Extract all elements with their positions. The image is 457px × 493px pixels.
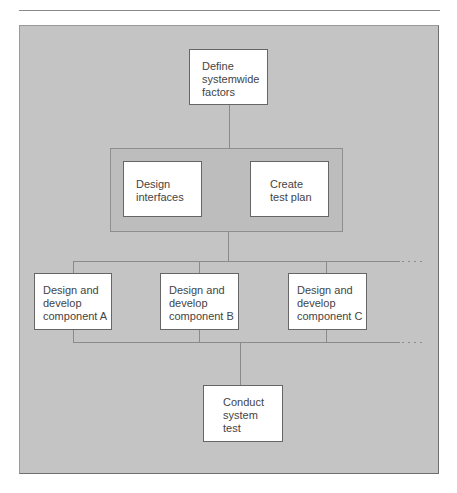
box-line: component A (43, 310, 111, 323)
box-line: develop (169, 297, 238, 310)
component-c-box: Design and develop component C (288, 273, 367, 330)
define-systemwide-factors-box: Define systemwide factors (189, 49, 268, 105)
conduct-system-test-box: Conduct system test (203, 385, 283, 442)
component-b-box: Design and develop component B (160, 273, 239, 330)
bottom-bus-line (73, 342, 400, 343)
box-line: system (223, 409, 282, 422)
create-test-plan-box: Create test plan (250, 161, 329, 217)
box-line: component B (169, 310, 238, 323)
box-line: Design and (169, 284, 238, 297)
component-a-box: Design and develop component A (34, 273, 112, 330)
box-line: Design and (297, 284, 366, 297)
box-line: Design and (43, 284, 111, 297)
design-interfaces-box: Design interfaces (123, 161, 202, 217)
connector-top-to-group (229, 105, 230, 148)
top-rule (19, 10, 440, 11)
connector-group-to-bus (228, 232, 229, 261)
box-line: factors (202, 86, 267, 99)
box-line: systemwide (202, 73, 267, 86)
box-line: Define (202, 60, 267, 73)
connector-bus-to-test (240, 342, 241, 385)
box-line: Create (270, 178, 328, 191)
box-line: develop (43, 297, 111, 310)
box-line: Conduct (223, 396, 282, 409)
bottom-bus-continuation (402, 342, 426, 343)
top-bus-continuation (402, 261, 426, 262)
box-line: component C (297, 310, 366, 323)
box-line: develop (297, 297, 366, 310)
box-line: test (223, 422, 282, 435)
box-line: test plan (270, 191, 328, 204)
top-bus-line (73, 261, 400, 262)
box-line: interfaces (136, 191, 201, 204)
box-line: Design (136, 178, 201, 191)
